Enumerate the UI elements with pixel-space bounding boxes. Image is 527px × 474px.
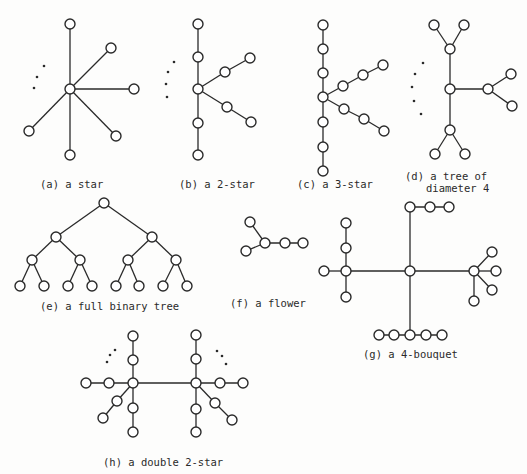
caption-c-three-star: (c) a 3-star bbox=[297, 178, 373, 190]
star-graph bbox=[24, 19, 139, 160]
two-star-graph bbox=[165, 19, 256, 160]
four-bouquet-graph bbox=[319, 202, 501, 340]
caption-h-double-two-star: (h) a double 2-star bbox=[103, 456, 223, 468]
tree-diagrams bbox=[0, 0, 527, 474]
caption-d-tree-diameter-four-line1: (d) a tree of bbox=[405, 170, 487, 182]
caption-e-full-binary-tree: (e) a full binary tree bbox=[40, 300, 179, 312]
double-two-star-graph bbox=[81, 330, 248, 437]
caption-a-star: (a) a star bbox=[40, 178, 103, 190]
flower-graph bbox=[241, 217, 308, 256]
diameter-four-tree-graph bbox=[411, 20, 517, 159]
caption-g-four-bouquet: (g) a 4-bouquet bbox=[363, 348, 458, 360]
caption-d-tree-diameter-four-line2: diameter 4 bbox=[426, 182, 489, 194]
three-star-graph bbox=[318, 20, 389, 176]
caption-b-two-star: (b) a 2-star bbox=[179, 178, 255, 190]
full-binary-tree-graph bbox=[15, 198, 192, 291]
caption-f-flower: (f) a flower bbox=[230, 297, 306, 309]
figure-canvas: (a) a star (b) a 2-star (c) a 3-star (d)… bbox=[0, 0, 527, 474]
